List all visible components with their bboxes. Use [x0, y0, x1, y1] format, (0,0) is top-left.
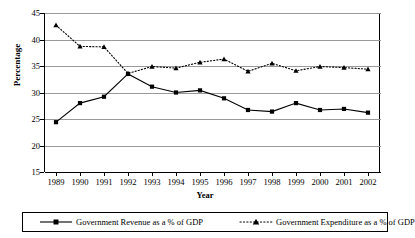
- x-tick-mark: [104, 172, 105, 176]
- legend-item-revenue: Government Revenue as a % of GDP: [39, 217, 203, 227]
- x-tick-mark: [272, 172, 273, 176]
- x-tick-mark: [248, 172, 249, 176]
- legend-item-expenditure: Government Expenditure as a % of GDP: [239, 217, 415, 227]
- x-tick-mark: [224, 172, 225, 176]
- x-tick-mark: [200, 172, 201, 176]
- x-tick-mark: [176, 172, 177, 176]
- x-tick-mark: [80, 172, 81, 176]
- x-tick-mark: [128, 172, 129, 176]
- x-axis-title: Year: [0, 190, 410, 200]
- legend-sample-revenue-icon: [39, 217, 73, 227]
- x-tick-mark: [296, 172, 297, 176]
- x-tick-mark: [56, 172, 57, 176]
- chart-legend: Government Revenue as a % of GDP Governm…: [22, 212, 388, 232]
- x-tick-label: 2002: [351, 178, 385, 187]
- x-tick-mark: [344, 172, 345, 176]
- x-tick-mark: [368, 172, 369, 176]
- x-tick-mark: [152, 172, 153, 176]
- legend-label-expenditure: Government Expenditure as a % of GDP: [276, 217, 415, 227]
- legend-label-revenue: Government Revenue as a % of GDP: [76, 217, 203, 227]
- x-tick-mark: [320, 172, 321, 176]
- legend-sample-expenditure-icon: [239, 217, 273, 227]
